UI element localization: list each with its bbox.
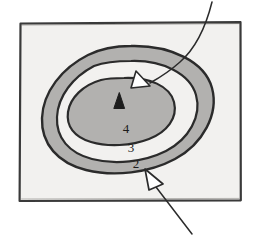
contour-map-sketch: 4 3 2 <box>0 0 261 236</box>
sketch-canvas: 4 3 2 <box>0 0 261 236</box>
contour-label-2: 2 <box>133 156 140 171</box>
contour-label-3: 3 <box>128 140 135 155</box>
contour-label-4: 4 <box>123 121 130 136</box>
contour-core-4 <box>68 78 175 145</box>
